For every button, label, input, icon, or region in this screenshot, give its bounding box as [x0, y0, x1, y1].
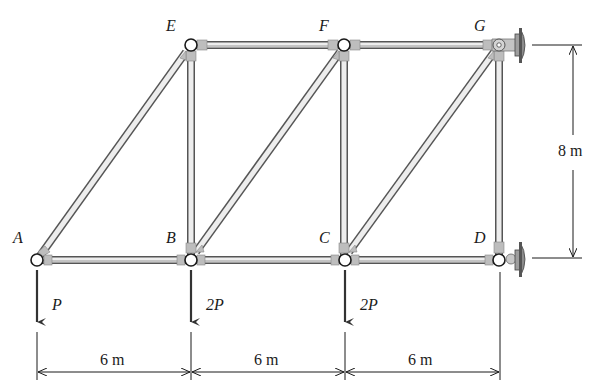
joint-A	[31, 254, 43, 266]
load-label-B: 2P	[206, 297, 224, 313]
load-arrows	[37, 270, 345, 322]
joint-F	[338, 39, 350, 51]
dim-label-CD: 6 m	[406, 352, 434, 368]
joint-label-G: G	[474, 18, 486, 34]
joint-label-B: B	[166, 230, 176, 246]
roller-support-D	[506, 242, 525, 277]
dim-label-height: 8 m	[556, 143, 584, 159]
joint-label-C: C	[319, 230, 330, 246]
joint-label-D: D	[474, 230, 486, 246]
load-label-A: P	[52, 297, 62, 313]
truss-members	[37, 45, 499, 261]
joint-D	[493, 254, 505, 266]
dim-label-AB: 6 m	[98, 352, 126, 368]
joint-label-F: F	[319, 18, 329, 34]
joint-label-A: A	[13, 230, 23, 246]
dim-label-BC: 6 m	[252, 352, 280, 368]
load-label-C: 2P	[360, 297, 378, 313]
joint-label-E: E	[166, 18, 176, 34]
joint-E	[185, 39, 197, 51]
joint-C	[339, 254, 351, 266]
truss-diagram	[0, 0, 598, 390]
joint-B	[185, 254, 197, 266]
